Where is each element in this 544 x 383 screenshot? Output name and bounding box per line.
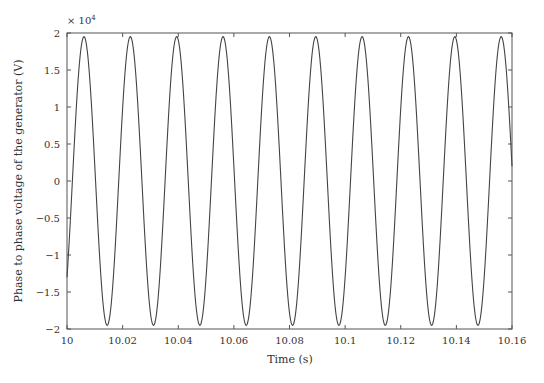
y-tick-label: 1 — [54, 102, 60, 113]
y-tick-label: 0 — [54, 176, 60, 187]
y-tick-label: −2 — [45, 324, 60, 335]
x-tick-label: 10.1 — [334, 335, 356, 346]
y-tick-label: 1.5 — [44, 65, 60, 76]
plot-frame — [67, 33, 512, 329]
y-tick-label: −1 — [45, 250, 60, 261]
y-multiplier-label: × 104 — [67, 14, 96, 26]
y-tick-label: −1.5 — [36, 287, 60, 298]
plot-area — [67, 33, 512, 329]
voltage-waveform — [67, 37, 512, 326]
x-tick-label: 10.12 — [386, 335, 415, 346]
x-axis-label: Time (s) — [267, 353, 313, 366]
x-tick-label: 10.14 — [442, 335, 471, 346]
y-tick-label: −0.5 — [36, 213, 60, 224]
x-tick-label: 10 — [61, 335, 74, 346]
voltage-chart: 1010.0210.0410.0610.0810.110.1210.1410.1… — [0, 0, 544, 383]
y-tick-label: 2 — [54, 28, 60, 39]
y-axis-ticks: −2−1.5−1−0.500.511.52 — [36, 28, 512, 335]
x-tick-label: 10.06 — [220, 335, 249, 346]
y-tick-label: 0.5 — [44, 139, 60, 150]
x-axis-ticks: 1010.0210.0410.0610.0810.110.1210.1410.1… — [61, 33, 527, 346]
x-tick-label: 10.04 — [164, 335, 193, 346]
x-tick-label: 10.16 — [498, 335, 527, 346]
x-tick-label: 10.02 — [108, 335, 137, 346]
y-axis-label: Phase to phase voltage of the generator … — [12, 60, 25, 303]
x-tick-label: 10.08 — [275, 335, 304, 346]
voltage-line — [67, 37, 512, 326]
